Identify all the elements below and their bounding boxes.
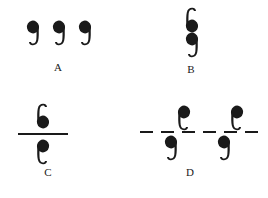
note-d-3-icon	[226, 103, 248, 133]
panel-label-d: D	[180, 167, 200, 178]
glide-plane-dash	[140, 131, 153, 133]
note-d-1-icon	[173, 103, 195, 133]
note-d-4-icon	[213, 133, 235, 163]
symmetry-operation-figure: A B C	[0, 0, 268, 198]
panel-d: D	[0, 0, 268, 198]
note-d-2-icon	[160, 133, 182, 163]
